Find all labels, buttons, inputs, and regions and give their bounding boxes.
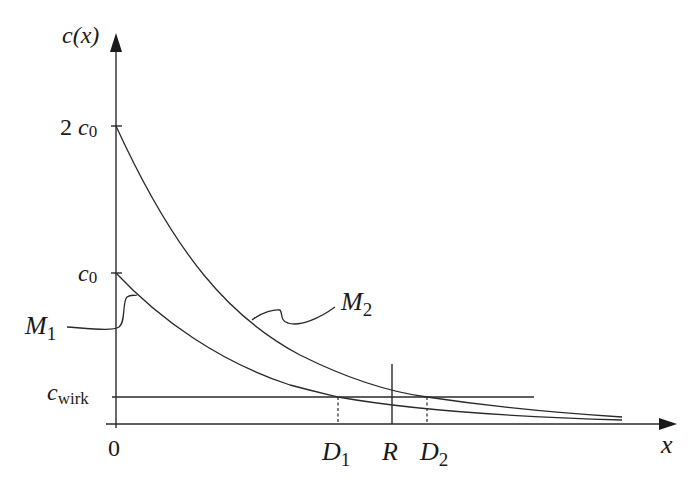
label-m1: M1 [24,311,56,344]
curve-m1 [116,273,622,420]
curve-m2 [116,126,622,417]
label-c-wirk: cwirk [47,379,89,408]
label-r: R [381,437,398,466]
label-d2: D2 [419,437,448,470]
label-2c0: 2 c0 [60,114,97,141]
label-m2: M2 [340,287,372,320]
m1-leader [67,295,137,329]
x-axis-label: x [660,430,673,459]
y-axis [110,33,122,428]
concentration-diagram: c(x) 2 c0 c0 cwirk M1 M2 0 D1 R D2 x [0,0,697,489]
m2-leader [252,307,335,324]
y-axis-arrow-icon [110,33,122,52]
x-axis-arrow-icon [659,418,677,430]
label-origin: 0 [108,435,120,461]
label-d1: D1 [321,437,350,470]
y-axis-label: c(x) [62,22,99,48]
label-c0: c0 [78,260,97,287]
